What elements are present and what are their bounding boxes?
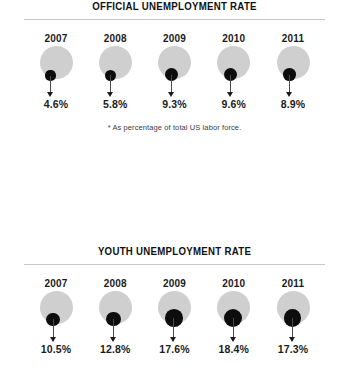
pointer-arrowhead bbox=[230, 337, 236, 342]
bubble-group bbox=[208, 44, 260, 96]
youth-section-title: YOUTH UNEMPLOYMENT RATE bbox=[14, 245, 335, 264]
pointer-arrowhead bbox=[168, 92, 174, 97]
youth-value-col-2007: 10.5% bbox=[30, 343, 82, 355]
pointer-stem bbox=[50, 76, 51, 92]
bubble-group bbox=[267, 289, 319, 341]
bubble-group bbox=[30, 44, 82, 96]
youth-values-row: 10.5% 12.8% 17.6% 18.4% 17.3% bbox=[0, 341, 349, 355]
bubble-group bbox=[149, 44, 201, 96]
bubble-group bbox=[89, 44, 141, 96]
official-values-row: 4.6% 5.8% 9.3% 9.6% 8.9% bbox=[0, 96, 349, 110]
year-label: 2010 bbox=[222, 33, 245, 44]
youth-bubbles-row bbox=[0, 289, 349, 341]
youth-years-row: 2007 2008 2009 2010 2011 bbox=[0, 265, 349, 289]
youth-value-col-2010: 18.4% bbox=[208, 343, 260, 355]
year-label: 2010 bbox=[222, 278, 245, 289]
bubble-group bbox=[208, 289, 260, 341]
official-bubble-col-2008 bbox=[89, 44, 141, 96]
youth-bubble-col-2009 bbox=[149, 289, 201, 341]
official-col-2011: 2011 bbox=[267, 33, 319, 44]
pointer-arrowhead bbox=[289, 337, 295, 342]
bubble-group bbox=[149, 289, 201, 341]
year-label: 2011 bbox=[282, 278, 305, 289]
pointer-stem bbox=[233, 318, 234, 337]
value-label: 4.6% bbox=[44, 98, 68, 110]
youth-value-col-2009: 17.6% bbox=[149, 343, 201, 355]
pointer-stem bbox=[113, 319, 114, 337]
pointer-stem bbox=[230, 75, 231, 92]
official-bubbles-row bbox=[0, 44, 349, 96]
year-label: 2008 bbox=[104, 33, 127, 44]
official-bubble-col-2011 bbox=[267, 44, 319, 96]
youth-value-col-2011: 17.3% bbox=[267, 343, 319, 355]
youth-col-2011: 2011 bbox=[267, 278, 319, 289]
pointer-arrowhead bbox=[227, 92, 233, 97]
bubble-group bbox=[267, 44, 319, 96]
pointer-arrowhead bbox=[47, 92, 53, 97]
value-label: 17.6% bbox=[159, 343, 189, 355]
official-bubble-col-2009 bbox=[149, 44, 201, 96]
section-youth-unemployment: YOUTH UNEMPLOYMENT RATE 2007 2008 2009 2… bbox=[0, 245, 349, 355]
section-official-unemployment: OFFICIAL UNEMPLOYMENT RATE 2007 2008 200… bbox=[0, 0, 349, 132]
pointer-stem bbox=[292, 318, 293, 337]
youth-bubble-col-2008 bbox=[89, 289, 141, 341]
youth-bubble-col-2010 bbox=[208, 289, 260, 341]
official-value-col-2010: 9.6% bbox=[208, 98, 260, 110]
value-label: 8.9% bbox=[281, 98, 305, 110]
year-label: 2009 bbox=[163, 278, 186, 289]
bubble-background-circle bbox=[40, 46, 73, 79]
official-col-2007: 2007 bbox=[30, 33, 82, 44]
value-label: 9.3% bbox=[162, 98, 186, 110]
pointer-stem bbox=[110, 75, 111, 92]
pointer-arrowhead bbox=[107, 92, 113, 97]
value-label: 9.6% bbox=[222, 98, 246, 110]
pointer-stem bbox=[289, 75, 290, 92]
official-value-col-2009: 9.3% bbox=[149, 98, 201, 110]
official-footnote-wrap: * As percentage of total US labor force. bbox=[0, 110, 349, 132]
official-col-2008: 2008 bbox=[89, 33, 141, 44]
official-col-2010: 2010 bbox=[208, 33, 260, 44]
year-label: 2009 bbox=[163, 33, 186, 44]
youth-col-2007: 2007 bbox=[30, 278, 82, 289]
official-value-col-2007: 4.6% bbox=[30, 98, 82, 110]
official-years-row: 2007 2008 2009 2010 2011 bbox=[0, 20, 349, 44]
value-label: 12.8% bbox=[100, 343, 130, 355]
bubble-group bbox=[89, 289, 141, 341]
year-label: 2007 bbox=[44, 278, 67, 289]
pointer-arrowhead bbox=[50, 337, 56, 342]
value-label: 10.5% bbox=[41, 343, 71, 355]
official-col-2009: 2009 bbox=[149, 33, 201, 44]
year-label: 2008 bbox=[104, 278, 127, 289]
official-bubble-col-2010 bbox=[208, 44, 260, 96]
youth-bubble-col-2011 bbox=[267, 289, 319, 341]
value-label: 5.8% bbox=[103, 98, 127, 110]
year-label: 2007 bbox=[44, 33, 67, 44]
unemployment-infographic: OFFICIAL UNEMPLOYMENT RATE 2007 2008 200… bbox=[0, 0, 349, 379]
value-label: 18.4% bbox=[219, 343, 249, 355]
youth-value-col-2008: 12.8% bbox=[89, 343, 141, 355]
official-value-col-2011: 8.9% bbox=[267, 98, 319, 110]
pointer-stem bbox=[53, 319, 54, 337]
pointer-arrowhead bbox=[170, 337, 176, 342]
official-footnote: * As percentage of total US labor force. bbox=[0, 123, 349, 132]
pointer-stem bbox=[173, 318, 174, 337]
bubble-group bbox=[30, 289, 82, 341]
pointer-arrowhead bbox=[286, 92, 292, 97]
pointer-stem bbox=[171, 75, 172, 92]
official-value-col-2008: 5.8% bbox=[89, 98, 141, 110]
youth-col-2008: 2008 bbox=[89, 278, 141, 289]
value-label: 17.3% bbox=[278, 343, 308, 355]
pointer-arrowhead bbox=[110, 337, 116, 342]
official-section-title: OFFICIAL UNEMPLOYMENT RATE bbox=[14, 0, 335, 19]
youth-bubble-col-2007 bbox=[30, 289, 82, 341]
year-label: 2011 bbox=[282, 33, 305, 44]
youth-col-2010: 2010 bbox=[208, 278, 260, 289]
official-bubble-col-2007 bbox=[30, 44, 82, 96]
youth-col-2009: 2009 bbox=[149, 278, 201, 289]
